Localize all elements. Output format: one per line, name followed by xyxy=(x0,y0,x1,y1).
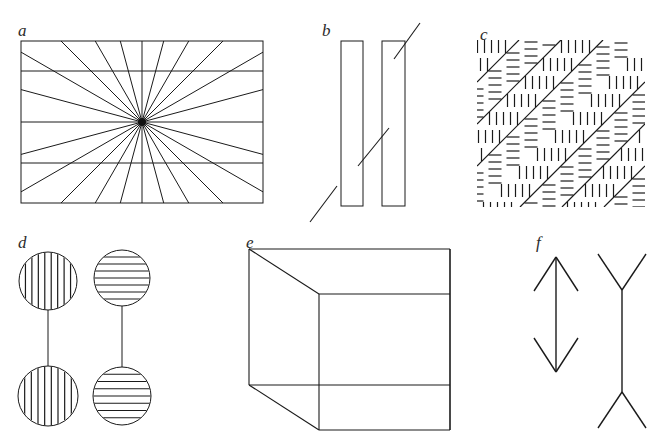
circle-outline xyxy=(18,366,78,426)
circle-stripes-vertical xyxy=(25,252,70,310)
fin-top-left xyxy=(534,257,556,291)
diagonal-upper-segment xyxy=(394,23,420,59)
radial-spoke xyxy=(21,122,142,154)
zollner-diagonal xyxy=(477,40,519,82)
radial-spoke xyxy=(142,41,189,122)
radial-spoke xyxy=(21,52,142,122)
radial-spoke xyxy=(142,41,223,122)
cube-edges-group xyxy=(249,249,450,430)
radial-spoke xyxy=(142,52,263,122)
radial-spoke xyxy=(120,41,142,122)
radial-spoke xyxy=(142,41,164,122)
zollner-diagonal xyxy=(604,166,645,207)
diagonal-lower-segment xyxy=(310,186,337,222)
panel-a-hering: a xyxy=(0,0,300,230)
panel-c-label: c xyxy=(480,26,488,43)
radial-spoke xyxy=(21,90,142,122)
poggendorff-bar xyxy=(341,41,363,206)
striped-circles-group xyxy=(18,250,151,426)
zollner-diagonal xyxy=(477,40,603,166)
vertical-bars-group xyxy=(341,41,405,206)
zollner-diagonal xyxy=(562,124,645,207)
zollner-diagonal xyxy=(520,82,645,207)
diagonal-middle-segment xyxy=(358,128,389,166)
radial-center-dot xyxy=(138,118,146,126)
optical-illusions-figure: a b c d e xyxy=(0,0,656,442)
fin-bottom-right xyxy=(622,392,646,428)
radial-spoke xyxy=(142,122,263,192)
circle-outline xyxy=(94,250,150,306)
circle-stripes-horizontal xyxy=(93,374,151,418)
radial-spoke xyxy=(21,122,142,192)
connector-lines-group xyxy=(48,306,122,367)
fin-top-right xyxy=(556,257,578,291)
circle-outline xyxy=(93,367,151,425)
radial-spoke xyxy=(95,41,142,122)
hatch-marks-group xyxy=(477,40,645,207)
circle-stripes-vertical xyxy=(25,366,72,426)
circle-outline xyxy=(19,252,77,310)
panel-b-label: b xyxy=(322,22,331,39)
panel-f-label: f xyxy=(536,234,541,251)
cube-edge-connector-bottom-left xyxy=(249,385,319,430)
zollner-diagonal xyxy=(477,40,561,124)
fin-bottom-left xyxy=(598,392,622,428)
panel-a-label: a xyxy=(18,22,27,39)
panel-d-label: d xyxy=(18,234,27,251)
fin-top-left xyxy=(598,254,622,290)
fin-top-right xyxy=(622,254,646,290)
panel-e-label: e xyxy=(246,234,254,251)
radial-spoke xyxy=(142,90,263,122)
fin-bottom-left xyxy=(534,338,556,372)
cube-edge-connector-top-left xyxy=(249,249,319,294)
muller-lyer-arrows-group xyxy=(534,254,646,428)
poggendorff-bar xyxy=(382,41,405,206)
radial-spoke xyxy=(142,122,263,154)
circle-stripes-horizontal xyxy=(94,257,150,299)
panel-a-canvas xyxy=(0,0,300,230)
zollner-diagonals-group xyxy=(477,40,645,207)
radial-spoke xyxy=(61,41,142,122)
diagonal-segments-group xyxy=(310,23,420,222)
fin-bottom-right xyxy=(556,338,578,372)
